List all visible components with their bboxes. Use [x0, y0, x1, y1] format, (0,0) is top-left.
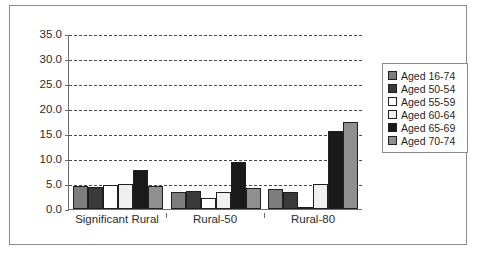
legend-swatch-icon [388, 123, 397, 132]
bar [216, 192, 231, 209]
bar [133, 170, 148, 209]
legend-item-label: Aged 60-64 [401, 109, 455, 121]
chart-legend: Aged 16-74Aged 50-54Aged 55-59Aged 60-64… [382, 63, 468, 153]
bar [313, 184, 328, 209]
legend-item: Aged 55-59 [388, 95, 463, 108]
chart-frame: 35.030.025.020.015.010.05.00.0 Significa… [9, 5, 467, 245]
legend-item-label: Aged 50-54 [401, 83, 455, 95]
y-axis-tick-mark [65, 210, 69, 211]
legend-swatch-icon [388, 97, 397, 106]
legend-swatch-icon [388, 84, 397, 93]
legend-item: Aged 60-64 [388, 108, 463, 121]
y-axis-tick-label: 10.0 [16, 154, 62, 165]
bar [246, 188, 261, 209]
legend-swatch-icon [388, 136, 397, 145]
bar [343, 122, 358, 209]
bar [328, 131, 343, 210]
legend-item-label: Aged 16-74 [401, 70, 455, 82]
bar [171, 192, 186, 209]
bar-group [264, 35, 362, 209]
legend-item-label: Aged 55-59 [401, 96, 455, 108]
bar [88, 187, 103, 210]
x-axis-tick-label: Rural-80 [264, 213, 362, 225]
x-axis-tick-mark [264, 213, 265, 218]
bar [283, 192, 298, 210]
y-axis-tick-label: 35.0 [16, 29, 62, 40]
legend-swatch-icon [388, 71, 397, 80]
bar [201, 198, 216, 210]
plot-area [68, 35, 362, 210]
x-axis-tick-label: Significant Rural [68, 213, 166, 225]
legend-item: Aged 50-54 [388, 82, 463, 95]
bar [148, 186, 163, 210]
y-axis-tick-label: 25.0 [16, 79, 62, 90]
y-axis-tick-label: 0.0 [16, 204, 62, 215]
bar [298, 207, 313, 209]
bar-group [69, 35, 167, 209]
y-axis-tick-label: 5.0 [16, 179, 62, 190]
bar [268, 189, 283, 209]
legend-item-label: Aged 65-69 [401, 122, 455, 134]
legend-item: Aged 70-74 [388, 134, 463, 147]
bar [186, 191, 201, 209]
y-axis-tick-label: 30.0 [16, 54, 62, 65]
x-axis-tick-mark [166, 213, 167, 218]
x-axis-labels: Significant RuralRural-50Rural-80 [68, 213, 362, 225]
y-axis-labels: 35.030.025.020.015.010.05.00.0 [10, 35, 62, 210]
x-axis-tick-label: Rural-50 [166, 213, 264, 225]
bar [118, 184, 133, 209]
legend-swatch-icon [388, 110, 397, 119]
bar [73, 186, 88, 209]
bar [103, 185, 118, 210]
legend-item: Aged 65-69 [388, 121, 463, 134]
bar-group [167, 35, 265, 209]
bar-series-container [69, 35, 362, 209]
legend-item-label: Aged 70-74 [401, 135, 455, 147]
y-axis-tick-label: 20.0 [16, 104, 62, 115]
bar [231, 162, 246, 210]
legend-item: Aged 16-74 [388, 69, 463, 82]
y-axis-tick-label: 15.0 [16, 129, 62, 140]
